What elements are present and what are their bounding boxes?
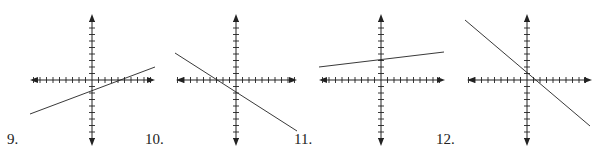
arrow-right-icon	[147, 77, 155, 83]
problem-number-9: 9.	[7, 132, 18, 147]
coordinate-graph-11	[319, 14, 445, 146]
arrow-down-icon	[524, 138, 530, 146]
arrow-down-icon	[378, 138, 384, 146]
arrow-up-icon	[524, 14, 530, 22]
arrow-right-icon	[289, 77, 297, 83]
arrow-up-icon	[378, 14, 384, 22]
arrow-down-icon	[89, 138, 95, 146]
arrow-down-icon	[233, 138, 239, 146]
arrow-left-icon	[319, 77, 327, 83]
arrow-left-icon	[30, 77, 38, 83]
arrow-up-icon	[233, 14, 239, 22]
arrow-up-icon	[89, 14, 95, 22]
coordinate-graph-12	[465, 14, 592, 146]
problem-number-12: 12.	[436, 132, 455, 147]
problem-number-10: 10.	[145, 132, 164, 147]
coordinate-graph-9	[30, 14, 155, 146]
problem-number-11: 11.	[294, 132, 312, 147]
arrow-right-icon	[437, 77, 445, 83]
coordinate-graph-10	[175, 14, 297, 146]
